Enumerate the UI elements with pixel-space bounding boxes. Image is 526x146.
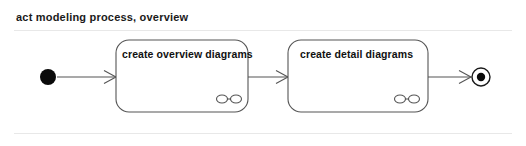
final-node-icon[interactable] (472, 68, 490, 86)
control-flow-edge-start-to-action-0[interactable] (57, 71, 116, 84)
control-flow-edge-action-0-to-action-1[interactable] (248, 71, 288, 84)
initial-node-icon[interactable] (40, 69, 56, 85)
diagram-canvas (0, 0, 526, 146)
activity-diagram-frame: act modeling process, overview (0, 0, 526, 146)
control-flow-edge-action-1-to-end[interactable] (428, 71, 471, 84)
action-node-label: create detail diagrams (300, 48, 413, 60)
action-node-label: create overview diagrams (122, 48, 253, 60)
